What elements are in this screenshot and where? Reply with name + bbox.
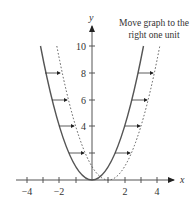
- y-tick-label: 4: [81, 121, 86, 132]
- y-tick-label: 10: [76, 41, 86, 52]
- x-axis-label: x: [179, 174, 185, 185]
- y-axis-label: y: [88, 12, 94, 23]
- x-tick-label: 4: [155, 186, 160, 197]
- y-tick-label: 8: [81, 68, 86, 79]
- shift-arrows: [45, 73, 153, 153]
- shift-annotation: Move graph to the right one unit: [112, 17, 195, 41]
- x-tick-label: −2: [54, 186, 65, 197]
- y-tick-label: 6: [81, 95, 86, 106]
- x-tick-label: −4: [22, 186, 33, 197]
- x-tick-label: 2: [123, 186, 128, 197]
